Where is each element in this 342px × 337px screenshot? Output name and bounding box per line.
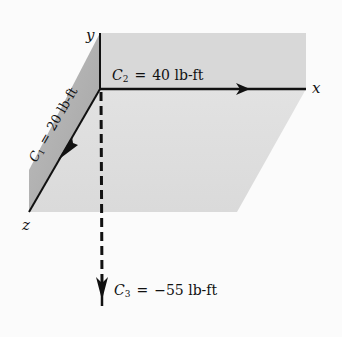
c3-symbol: C: [114, 282, 125, 298]
c3-equals: =: [136, 282, 148, 298]
plate: [29, 33, 306, 212]
c2-symbol: C: [112, 67, 123, 83]
c3-label: C3=−55 lb-ft: [114, 282, 218, 299]
y-axis-label: y: [85, 26, 95, 44]
c3-subscript: 3: [125, 289, 131, 299]
c3-value: −55 lb-ft: [154, 282, 217, 298]
z-axis-label: z: [21, 216, 30, 234]
x-axis-label: x: [312, 79, 321, 97]
moment-vector-diagram: y x C2=40 lb-ft z C1=20 lb-ft C3=−55 lb-…: [0, 0, 342, 337]
svg-text:C3=−55 lb-ft: C3=−55 lb-ft: [114, 282, 218, 299]
c2-value: 40 lb-ft: [152, 67, 204, 83]
c2-subscript: 2: [123, 74, 129, 84]
c2-equals: =: [134, 67, 146, 83]
